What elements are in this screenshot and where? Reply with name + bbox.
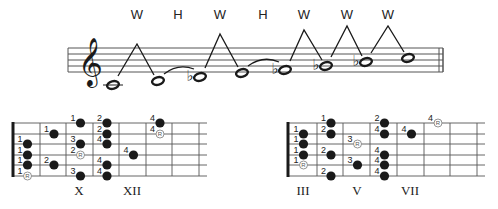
music-staff: 𝄞♭♭♭♭WHWHWWW <box>68 7 443 90</box>
finger-number: 4 <box>150 124 155 134</box>
finger-number: 2 <box>321 166 326 176</box>
note-d <box>151 76 165 86</box>
finger-number: 4 <box>374 145 379 155</box>
whole-note-head <box>235 68 249 78</box>
fretboard-diagram-left: 111R11213R232244444R4XXII <box>13 113 207 198</box>
root-label: R <box>301 162 306 168</box>
filled-dot-icon <box>326 171 335 180</box>
interval-label: W <box>298 7 311 22</box>
root-label: R <box>355 141 360 147</box>
filled-dot-icon <box>380 150 389 159</box>
note-ab: ♭ <box>312 56 332 74</box>
filled-dot-icon <box>353 160 362 169</box>
finger-number: 3 <box>347 134 352 144</box>
finger-number: 1 <box>44 124 49 134</box>
finger-dot: 3 <box>70 166 85 181</box>
interval-whole: W <box>290 7 322 61</box>
filled-dot-icon <box>407 129 416 138</box>
whole-step-arrow <box>205 34 238 68</box>
finger-number: 1 <box>17 134 22 144</box>
note-f <box>235 68 249 78</box>
finger-number: 1 <box>321 113 326 123</box>
root-label: R <box>25 173 30 179</box>
note-c <box>103 80 123 90</box>
filled-dot-icon <box>76 139 85 148</box>
finger-number: 4 <box>374 124 379 134</box>
filled-dot-icon <box>102 139 111 148</box>
finger-number: 2 <box>374 113 379 123</box>
interval-half: H <box>164 7 194 74</box>
fret-position-label: VII <box>401 183 419 198</box>
finger-number: 1 <box>293 134 298 144</box>
filled-dot-icon <box>102 171 111 180</box>
interval-whole: W <box>205 7 238 68</box>
finger-number: 2 <box>97 124 102 134</box>
filled-dot-icon <box>76 171 85 180</box>
filled-dot-icon <box>23 160 32 169</box>
filled-dot-icon <box>102 160 111 169</box>
finger-number: 4 <box>97 155 102 165</box>
finger-dot: 2 <box>321 166 336 181</box>
root-label: R <box>436 120 441 126</box>
filled-dot-icon <box>299 139 308 148</box>
finger-number: 1 <box>293 155 298 165</box>
finger-number: 1 <box>17 155 22 165</box>
interval-label: W <box>382 7 395 22</box>
flat-icon: ♭ <box>352 52 359 70</box>
whole-note-head <box>193 72 207 82</box>
finger-number: 1 <box>293 124 298 134</box>
root-note-marker: R3 <box>347 134 361 148</box>
finger-number: 2 <box>321 145 326 155</box>
filled-dot-icon <box>326 150 335 159</box>
filled-dot-icon <box>23 139 32 148</box>
filled-dot-icon <box>380 171 389 180</box>
root-note-marker: R4 <box>428 113 442 127</box>
filled-dot-icon <box>76 118 85 127</box>
filled-dot-icon <box>299 129 308 138</box>
finger-dot: 4 <box>123 145 138 160</box>
finger-number: 4 <box>150 113 155 123</box>
finger-number: 3 <box>70 166 75 176</box>
interval-label: W <box>131 7 144 22</box>
finger-dot: 1 <box>70 113 85 128</box>
fret-position-label: V <box>352 183 362 198</box>
filled-dot-icon <box>326 129 335 138</box>
finger-number: 2 <box>97 113 102 123</box>
c-minor-scale-diagram: 𝄞♭♭♭♭WHWHWWW 111R11213R232244444R4XXII 1… <box>0 0 498 209</box>
filled-dot-icon <box>326 118 335 127</box>
interval-label: W <box>341 7 354 22</box>
filled-dot-icon <box>129 150 138 159</box>
finger-number: 4 <box>123 145 128 155</box>
filled-dot-icon <box>380 118 389 127</box>
finger-dot: 4 <box>401 124 416 139</box>
whole-note-head <box>151 76 165 86</box>
finger-dot: 2 <box>44 155 59 170</box>
filled-dot-icon <box>23 150 32 159</box>
interval-label: H <box>173 7 182 22</box>
finger-number: 4 <box>401 124 406 134</box>
finger-number: 1 <box>70 113 75 123</box>
finger-number: 1 <box>17 166 22 176</box>
filled-dot-icon <box>380 129 389 138</box>
interval-half: H <box>248 7 279 66</box>
finger-dot: 1 <box>44 124 59 139</box>
finger-number: 4 <box>428 113 433 123</box>
finger-number: 4 <box>97 134 102 144</box>
treble-clef-icon: 𝄞 <box>78 37 103 88</box>
filled-dot-icon <box>49 160 58 169</box>
flat-icon: ♭ <box>271 60 278 78</box>
finger-dot: 2 <box>321 145 336 160</box>
finger-number: 4 <box>97 166 102 176</box>
filled-dot-icon <box>102 118 111 127</box>
interval-label: W <box>214 7 227 22</box>
finger-number: 4 <box>374 166 379 176</box>
root-label: R <box>78 152 83 158</box>
note-gb: ♭ <box>271 60 291 78</box>
filled-dot-icon <box>380 160 389 169</box>
filled-dot-icon <box>102 129 111 138</box>
finger-number: 2 <box>321 124 326 134</box>
interval-whole: W <box>331 7 362 57</box>
note-bb: ♭ <box>352 52 372 70</box>
finger-number: 1 <box>17 145 22 155</box>
fret-position-label: III <box>297 183 310 198</box>
